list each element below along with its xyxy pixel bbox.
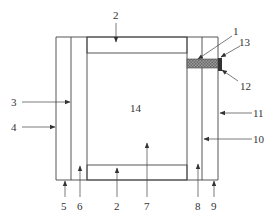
label-7: 7: [144, 200, 150, 212]
label-2-bottom: 2: [114, 200, 120, 212]
label-13: 13: [239, 36, 251, 48]
label-12: 12: [240, 80, 251, 92]
label-3: 3: [11, 96, 17, 108]
label-5: 5: [61, 200, 67, 212]
crosshatch-bar: [187, 59, 218, 68]
label-8: 8: [195, 200, 201, 212]
label-14: 14: [130, 102, 142, 114]
label-9: 9: [211, 200, 217, 212]
dark-end-tab: [218, 58, 222, 71]
label-2-top: 2: [113, 9, 119, 21]
label-11: 11: [253, 107, 264, 119]
label-6: 6: [77, 200, 83, 212]
label-10: 10: [253, 133, 265, 145]
bottom-plate: [87, 165, 187, 180]
label-1: 1: [233, 25, 239, 37]
diagram-canvas: 2 1 13 12 3 14 4 11 10 5 6 2 7 8 9: [0, 0, 274, 221]
top-plate: [87, 37, 187, 53]
label-4: 4: [11, 121, 17, 133]
